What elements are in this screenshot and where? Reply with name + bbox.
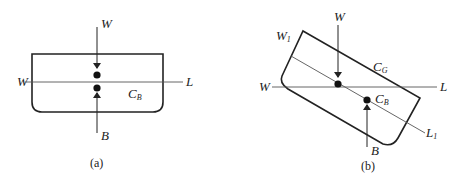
weight-label-b: W: [334, 9, 346, 24]
caption-a: (a): [90, 156, 103, 170]
waterline-left-label-b: W: [259, 79, 271, 94]
caption-b: (b): [361, 159, 375, 173]
buoyancy-label-a: B: [101, 128, 109, 143]
tilted-waterline-b: [291, 56, 425, 133]
buoyancy-label-b: B: [371, 143, 379, 158]
waterline-right-label-b: L: [439, 79, 447, 94]
center-buoyancy-label-b: CB: [375, 91, 389, 107]
tilted-waterline-end-label-b: L1: [425, 125, 437, 141]
center-gravity-dot-a: [93, 71, 100, 78]
center-buoyancy-dot-a: [93, 84, 100, 91]
panel-a-upright-hull: W W L CB B (a): [17, 16, 193, 170]
tilted-waterline-start-label-b: W1: [276, 28, 291, 44]
center-buoyancy-label-a: CB: [128, 86, 142, 102]
waterline-right-label-a: L: [185, 74, 193, 89]
panel-b-heeled-hull: W W1 CG W L CB L1 B (b): [259, 9, 447, 173]
center-gravity-label-b: CG: [373, 59, 388, 75]
weight-label-a: W: [101, 16, 113, 31]
hull-outline-b: [281, 31, 420, 145]
waterline-left-label-a: W: [17, 74, 29, 89]
center-gravity-dot-b: [334, 80, 341, 87]
buoyancy-stability-diagram: W W L CB B (a) W W1 CG W L CB L1 B (b): [0, 0, 461, 184]
center-buoyancy-dot-b: [363, 96, 370, 103]
